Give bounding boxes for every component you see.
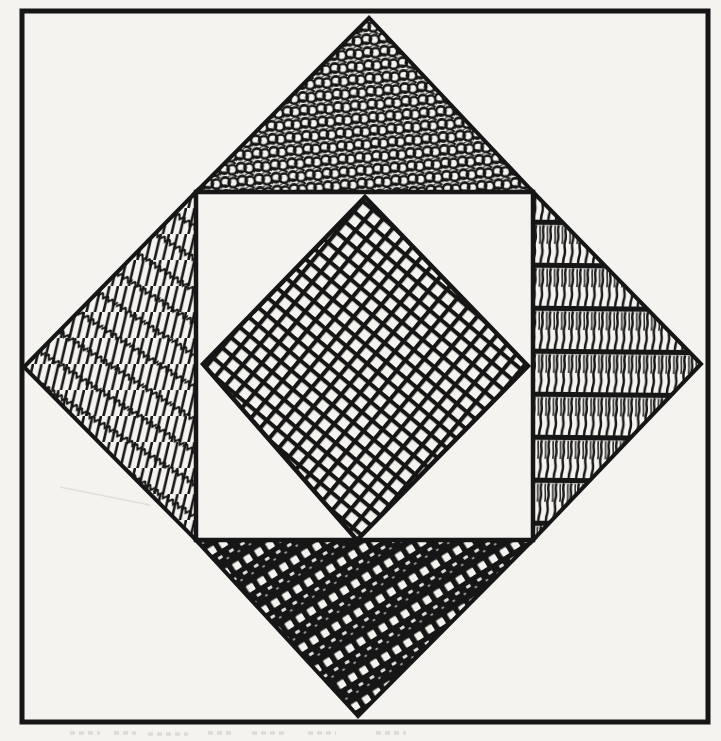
- diamond-left-triangle: [24, 192, 196, 540]
- diamond-right-triangle: [533, 192, 701, 540]
- illustration-canvas: [0, 0, 721, 741]
- illustration: [0, 0, 721, 741]
- diamond-top-triangle: [196, 18, 533, 192]
- shapes-layer: [22, 11, 708, 722]
- diamond-bottom-triangle: [196, 540, 533, 716]
